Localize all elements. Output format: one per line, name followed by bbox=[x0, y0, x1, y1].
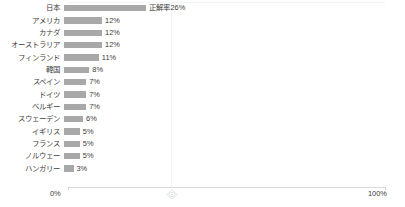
bar bbox=[64, 30, 102, 36]
bar bbox=[64, 17, 102, 23]
category-label: 日本 bbox=[0, 4, 64, 11]
category-label: スペイン bbox=[0, 78, 64, 85]
bar-row: ベルギー7% bbox=[0, 101, 405, 113]
bar-row: ノルウェー5% bbox=[0, 150, 405, 162]
bar-track: 7% bbox=[64, 76, 405, 88]
x-axis-line bbox=[68, 187, 385, 188]
bar-track: 5% bbox=[64, 125, 405, 137]
bar-row: スウェーデン6% bbox=[0, 113, 405, 125]
bar-track: 7% bbox=[64, 88, 405, 100]
category-label: ハンガリー bbox=[0, 165, 64, 172]
bar-value-label: 5% bbox=[80, 140, 94, 147]
bar-track: 12% bbox=[64, 27, 405, 39]
bar-rows: 日本正解率26%アメリカ12%カナダ12%オーストラリア12%フィンランド11%… bbox=[0, 2, 405, 175]
bar-track: 3% bbox=[64, 162, 405, 174]
bar-value-label: 11% bbox=[99, 54, 116, 61]
x-axis-label-max: 100% bbox=[368, 190, 387, 197]
bar-value-label: 3% bbox=[74, 165, 88, 172]
bar-value-label: 8% bbox=[89, 66, 103, 73]
bar-track: 6% bbox=[64, 113, 405, 125]
bar bbox=[64, 128, 80, 134]
category-label: フランス bbox=[0, 140, 64, 147]
bar-value-label: 7% bbox=[86, 103, 100, 110]
bar bbox=[64, 153, 80, 159]
bar-value-label: 5% bbox=[80, 152, 94, 159]
bar bbox=[64, 42, 102, 48]
bar-row: フィンランド11% bbox=[0, 51, 405, 63]
bar-row: ハンガリー3% bbox=[0, 162, 405, 174]
x-axis-label-min: 0% bbox=[50, 190, 61, 197]
bar bbox=[64, 165, 74, 171]
bar bbox=[64, 116, 83, 122]
bar-row: フランス5% bbox=[0, 138, 405, 150]
bar-row: アメリカ12% bbox=[0, 14, 405, 26]
bar-row: カナダ12% bbox=[0, 27, 405, 39]
bar-value-label: 12% bbox=[102, 29, 120, 36]
bar bbox=[64, 104, 86, 110]
bar-value-label: 12% bbox=[102, 41, 120, 48]
bar-row: イギリス5% bbox=[0, 125, 405, 137]
horizontal-bar-chart: 日本正解率26%アメリカ12%カナダ12%オーストラリア12%フィンランド11%… bbox=[0, 0, 405, 207]
bar-value-label: 7% bbox=[86, 78, 100, 85]
category-label: アメリカ bbox=[0, 17, 64, 24]
bar bbox=[64, 5, 146, 11]
bar-value-label: 12% bbox=[102, 17, 120, 24]
bar-row: 韓国8% bbox=[0, 64, 405, 76]
bar-row: ドイツ7% bbox=[0, 88, 405, 100]
bar-value-label: 6% bbox=[83, 115, 97, 122]
category-label: オーストラリア bbox=[0, 41, 64, 48]
bar bbox=[64, 79, 86, 85]
category-label: フィンランド bbox=[0, 54, 64, 61]
diamond-eye-icon bbox=[165, 186, 179, 197]
bar-row: オーストラリア12% bbox=[0, 39, 405, 51]
bar-value-label: 7% bbox=[86, 91, 100, 98]
bar-track: 8% bbox=[64, 64, 405, 76]
bar-value-label: 正解率26% bbox=[146, 4, 185, 11]
bar bbox=[64, 91, 86, 97]
category-label: 韓国 bbox=[0, 66, 64, 73]
category-label: ベルギー bbox=[0, 103, 64, 110]
category-label: カナダ bbox=[0, 29, 64, 36]
bar-track: 11% bbox=[64, 51, 405, 63]
bar-track: 12% bbox=[64, 14, 405, 26]
bar bbox=[64, 54, 99, 60]
bar-track: 5% bbox=[64, 138, 405, 150]
category-label: ドイツ bbox=[0, 91, 64, 98]
category-label: イギリス bbox=[0, 128, 64, 135]
bar-track: 7% bbox=[64, 101, 405, 113]
bar-track: 5% bbox=[64, 150, 405, 162]
bar-value-label: 5% bbox=[80, 128, 94, 135]
category-label: スウェーデン bbox=[0, 115, 64, 122]
bar bbox=[64, 67, 89, 73]
bar bbox=[64, 141, 80, 147]
bar-row: スペイン7% bbox=[0, 76, 405, 88]
bar-track: 正解率26% bbox=[64, 2, 405, 14]
bar-track: 12% bbox=[64, 39, 405, 51]
axis-tick-min bbox=[68, 187, 69, 190]
category-label: ノルウェー bbox=[0, 152, 64, 159]
bar-row: 日本正解率26% bbox=[0, 2, 405, 14]
